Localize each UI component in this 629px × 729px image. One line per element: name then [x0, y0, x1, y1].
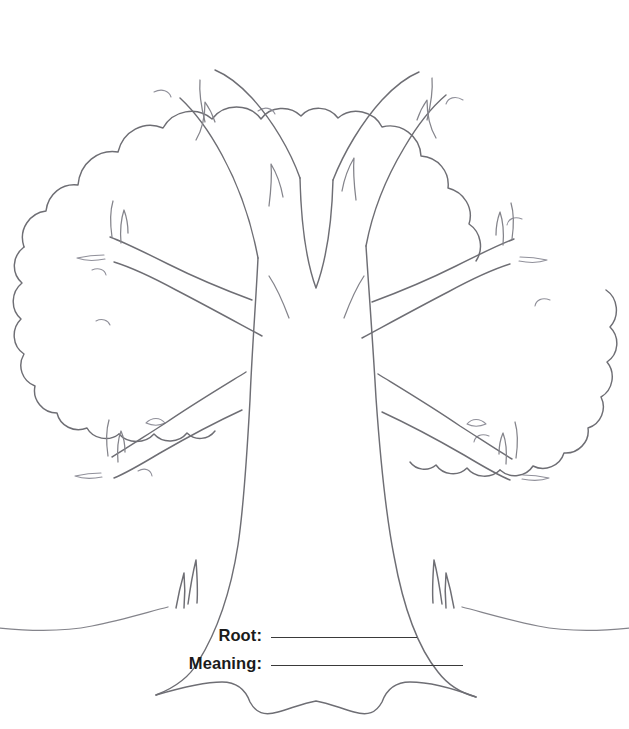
- form-row-root: Root:: [150, 626, 490, 654]
- form-row-meaning: Meaning:: [150, 654, 490, 682]
- tree-line-drawing: [0, 0, 629, 729]
- meaning-answer-line[interactable]: [271, 665, 463, 666]
- worksheet-page: Root: Meaning:: [0, 0, 629, 729]
- fill-in-form: Root: Meaning:: [150, 626, 490, 682]
- root-label: Root:: [150, 626, 262, 645]
- root-answer-line[interactable]: [271, 637, 417, 638]
- meaning-label: Meaning:: [150, 654, 262, 673]
